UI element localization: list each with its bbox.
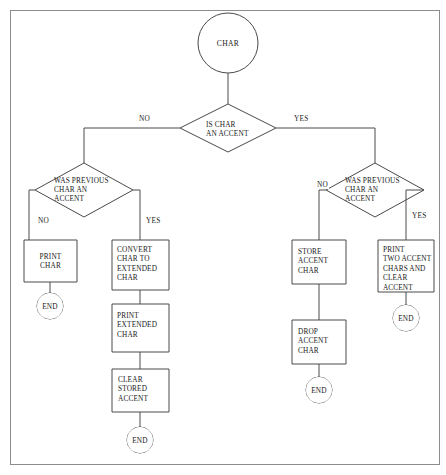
process-convert-char-line4: CHAR xyxy=(117,273,169,282)
process-print-two-accent[interactable]: PRINT TWO ACCENT CHARS AND CLEAR ACCENT xyxy=(378,240,434,292)
end-drop-accent[interactable]: END xyxy=(306,377,332,403)
edge-label-right-no: NO xyxy=(316,180,329,189)
edge-label-root-yes: YES xyxy=(293,114,310,123)
process-print-two-accent-line2: TWO ACCENT xyxy=(383,254,434,263)
edge-label-right-yes: YES xyxy=(411,211,428,220)
process-print-extended-line2: EXTENDED xyxy=(117,320,169,329)
process-drop-accent-char-line3: CHAR xyxy=(298,346,346,355)
process-store-accent-char-line3: CHAR xyxy=(298,266,346,275)
end-clear-stored-label: END xyxy=(132,436,148,445)
process-print-char-line2: CHAR xyxy=(40,261,61,270)
process-print-two-accent-line3: CHARS AND xyxy=(383,264,434,273)
process-print-char-line1: PRINT xyxy=(40,252,62,261)
process-print-char[interactable]: PRINT CHAR xyxy=(24,240,77,282)
flowchart-canvas: CHAR IS CHAR AN ACCENT NO YES WAS PREVIO… xyxy=(0,0,446,475)
process-store-accent-char-line2: ACCENT xyxy=(298,256,346,265)
process-convert-char-line2: CHAR TO xyxy=(117,254,169,263)
process-convert-char[interactable]: CONVERT CHAR TO EXTENDED CHAR xyxy=(112,240,169,290)
start-node-label: CHAR xyxy=(217,39,239,48)
diagram-frame xyxy=(10,10,440,465)
process-print-extended-line1: PRINT xyxy=(117,311,169,320)
process-clear-stored-accent-line2: STORED xyxy=(118,384,169,393)
process-print-extended[interactable]: PRINT EXTENDED CHAR xyxy=(112,304,169,352)
end-print-two-accent-label: END xyxy=(398,314,414,323)
process-convert-char-line3: EXTENDED xyxy=(117,264,169,273)
process-drop-accent-char-line2: ACCENT xyxy=(298,336,346,345)
process-convert-char-line1: CONVERT xyxy=(117,245,169,254)
process-drop-accent-char-line1: DROP xyxy=(298,327,346,336)
edge-label-left-no: NO xyxy=(37,216,50,225)
process-store-accent-char[interactable]: STORE ACCENT CHAR xyxy=(292,240,346,284)
end-print-char[interactable]: END xyxy=(37,293,63,319)
process-drop-accent-char[interactable]: DROP ACCENT CHAR xyxy=(292,320,346,364)
process-print-two-accent-line4: CLEAR xyxy=(383,273,434,282)
end-print-two-accent[interactable]: END xyxy=(393,305,419,331)
process-clear-stored-accent-line3: ACCENT xyxy=(118,394,169,403)
end-drop-accent-label: END xyxy=(311,386,327,395)
end-clear-stored[interactable]: END xyxy=(127,427,153,453)
edge-label-root-no: NO xyxy=(138,114,151,123)
edge-label-left-yes: YES xyxy=(145,216,162,225)
end-print-char-label: END xyxy=(42,302,58,311)
process-print-two-accent-line1: PRINT xyxy=(383,245,434,254)
start-node-char[interactable]: CHAR xyxy=(198,13,258,73)
process-print-two-accent-line5: ACCENT xyxy=(383,283,434,292)
process-clear-stored-accent[interactable]: CLEAR STORED ACCENT xyxy=(112,369,169,412)
process-clear-stored-accent-line1: CLEAR xyxy=(118,375,169,384)
process-print-extended-line3: CHAR xyxy=(117,330,169,339)
process-store-accent-char-line1: STORE xyxy=(298,247,346,256)
